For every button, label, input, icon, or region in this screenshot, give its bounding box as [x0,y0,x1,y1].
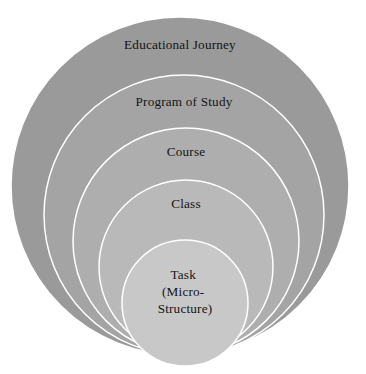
label-program-of-study: Program of Study [136,94,233,109]
diagram-root: Educational Journey Program of Study Cou… [0,0,366,374]
label-task-line-3: Structure) [158,301,213,316]
label-task-line-2: (Micro- [162,284,204,299]
nested-circles-diagram: Educational Journey Program of Study Cou… [0,0,366,374]
label-class: Class [171,196,201,211]
label-task-line-1: Task [170,267,196,282]
label-course: Course [167,144,206,159]
label-educational-journey: Educational Journey [124,37,236,52]
